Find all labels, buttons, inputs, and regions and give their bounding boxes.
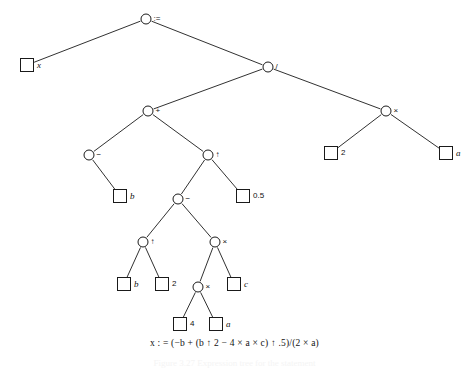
tree-edge bbox=[93, 160, 116, 190]
tree-edge bbox=[181, 160, 204, 194]
operand-square-icon bbox=[227, 277, 241, 291]
operand-leaf-node[interactable]: 2 bbox=[324, 146, 338, 160]
tree-edge bbox=[217, 247, 230, 277]
node-label: := bbox=[154, 15, 161, 23]
operator-node[interactable]: / bbox=[263, 62, 274, 73]
operand-leaf-node[interactable]: b bbox=[113, 189, 127, 203]
operand-leaf-node[interactable]: x bbox=[20, 58, 34, 72]
figure-caption: Figure 3.27 Expression tree for the stat… bbox=[0, 358, 469, 368]
operand-leaf-node[interactable]: 2 bbox=[155, 277, 169, 291]
node-label: + bbox=[156, 107, 161, 115]
operand-square-icon bbox=[324, 146, 338, 160]
tree-edge bbox=[127, 247, 140, 277]
tree-edge bbox=[201, 292, 213, 317]
operand-leaf-node[interactable]: c bbox=[227, 277, 241, 291]
tree-edge bbox=[94, 115, 143, 152]
operand-square-icon bbox=[209, 317, 223, 331]
node-label: / bbox=[276, 63, 278, 71]
operator-node[interactable]: := bbox=[141, 14, 152, 25]
node-label: − bbox=[97, 151, 102, 159]
operand-leaf-node[interactable]: a bbox=[209, 317, 223, 331]
tree-edge bbox=[212, 160, 238, 191]
tree-edge bbox=[200, 248, 213, 282]
operator-circle-icon bbox=[381, 106, 392, 117]
operator-circle-icon bbox=[138, 237, 149, 248]
tree-edge bbox=[182, 204, 211, 238]
operand-square-icon bbox=[173, 317, 187, 331]
operand-square-icon bbox=[20, 58, 34, 72]
tree-edge bbox=[152, 21, 263, 65]
operator-circle-icon bbox=[141, 14, 152, 25]
operator-circle-icon bbox=[173, 194, 184, 205]
node-label: 2 bbox=[341, 149, 345, 157]
operator-circle-icon bbox=[193, 282, 204, 293]
operand-leaf-node[interactable]: 0.5 bbox=[236, 189, 250, 203]
operand-leaf-node[interactable]: a bbox=[439, 146, 453, 160]
node-label: ↑ bbox=[216, 151, 220, 159]
node-label: × bbox=[394, 107, 399, 115]
node-label: a bbox=[456, 149, 461, 158]
operator-node[interactable]: × bbox=[193, 282, 204, 293]
operator-circle-icon bbox=[263, 62, 274, 73]
tree-edge bbox=[274, 69, 381, 109]
node-label: 4 bbox=[190, 320, 194, 328]
operator-node[interactable]: × bbox=[381, 106, 392, 117]
tree-edge bbox=[145, 247, 158, 277]
tree-edge bbox=[34, 21, 140, 62]
operator-node[interactable]: + bbox=[143, 106, 154, 117]
operator-circle-icon bbox=[84, 150, 95, 161]
node-label: b bbox=[134, 280, 139, 289]
operator-node[interactable]: × bbox=[210, 237, 221, 248]
operand-square-icon bbox=[439, 146, 453, 160]
operator-circle-icon bbox=[143, 106, 154, 117]
expression-tree-figure: :=x/+×2a−↑b0.5−↑×b2×c4a x : = (−b + (b ↑… bbox=[0, 0, 469, 368]
node-label: ↑ bbox=[151, 238, 155, 246]
node-label: c bbox=[244, 280, 248, 289]
operator-node[interactable]: − bbox=[173, 194, 184, 205]
operator-circle-icon bbox=[203, 150, 214, 161]
operator-node[interactable]: − bbox=[84, 150, 95, 161]
expression-formula: x : = (−b + (b ↑ 2 − 4 × a × c) ↑ .5)/(2… bbox=[0, 338, 469, 348]
operand-square-icon bbox=[236, 189, 250, 203]
node-label: − bbox=[186, 195, 191, 203]
operand-leaf-node[interactable]: b bbox=[117, 277, 131, 291]
node-label: x bbox=[37, 61, 41, 70]
node-label: 2 bbox=[172, 280, 176, 288]
node-label: b bbox=[130, 192, 135, 201]
operator-node[interactable]: ↑ bbox=[138, 237, 149, 248]
node-label: 0.5 bbox=[253, 192, 264, 200]
node-label: a bbox=[226, 320, 231, 329]
node-label: × bbox=[223, 238, 228, 246]
operand-leaf-node[interactable]: 4 bbox=[173, 317, 187, 331]
operand-square-icon bbox=[117, 277, 131, 291]
tree-edge bbox=[337, 115, 381, 149]
operator-circle-icon bbox=[210, 237, 221, 248]
tree-edge bbox=[154, 69, 263, 109]
operator-node[interactable]: ↑ bbox=[203, 150, 214, 161]
operand-square-icon bbox=[113, 189, 127, 203]
node-label: × bbox=[206, 283, 211, 291]
tree-edge bbox=[153, 115, 203, 152]
tree-edge bbox=[183, 292, 195, 317]
tree-edge bbox=[147, 204, 174, 238]
tree-edges-layer bbox=[0, 0, 469, 368]
operand-square-icon bbox=[155, 277, 169, 291]
tree-edge bbox=[391, 114, 440, 148]
